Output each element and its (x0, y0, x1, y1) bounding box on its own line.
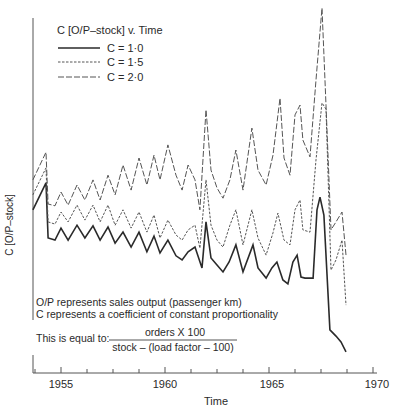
data-point (76, 184, 77, 185)
data-point (92, 179, 93, 180)
data-point (54, 205, 55, 206)
data-point (329, 329, 330, 330)
x-axis-ticks (35, 367, 373, 373)
data-point (138, 211, 139, 212)
data-point (60, 191, 61, 192)
data-point (272, 232, 273, 233)
formula-prefix: This is equal to: (36, 332, 110, 344)
data-point (300, 276, 301, 277)
series-line-15 (33, 103, 346, 305)
data-point (319, 197, 320, 198)
data-point (294, 209, 295, 210)
data-point (276, 261, 277, 262)
data-point (188, 229, 189, 230)
data-point (210, 257, 211, 258)
data-point (235, 149, 236, 150)
data-point (341, 211, 342, 212)
data-point (229, 225, 230, 226)
data-point (84, 237, 85, 238)
data-point (182, 190, 183, 191)
data-point (216, 240, 217, 241)
data-point (216, 264, 217, 265)
legend-label-c1-5: C = 1·5 (107, 56, 143, 68)
x-tick-label-1965: 1965 (260, 378, 284, 390)
data-point (201, 267, 202, 268)
data-point (266, 255, 267, 256)
data-point (131, 228, 132, 229)
data-point (282, 279, 283, 280)
data-point (115, 225, 116, 226)
data-point (175, 234, 176, 235)
annotations: O/P represents sales output (passenger k… (36, 296, 279, 353)
data-point (330, 229, 331, 230)
data-point (131, 247, 132, 248)
data-point (100, 221, 101, 222)
data-point (252, 244, 253, 245)
data-point (32, 209, 33, 210)
x-axis-tick-labels: 1955 1960 1965 1970 (49, 378, 389, 390)
legend-title: C [O/P–stock] v. Time (57, 24, 163, 36)
data-point (229, 261, 230, 262)
series-line-20 (33, 8, 346, 255)
data-point (48, 221, 49, 222)
data-point (115, 243, 116, 244)
formula-denominator: stock – (load factor – 100) (112, 341, 233, 353)
data-point (257, 237, 258, 238)
data-point (167, 240, 168, 241)
data-point (289, 244, 290, 245)
data-point (146, 232, 147, 233)
data-point (76, 205, 77, 206)
data-point (115, 194, 116, 195)
formula-numerator: orders X 100 (145, 326, 205, 338)
data-point (199, 209, 200, 210)
data-point (302, 140, 303, 141)
annotation-c: C represents a coefficient of constant p… (36, 308, 279, 320)
data-point (299, 105, 300, 106)
data-point (45, 152, 46, 153)
data-point (229, 179, 230, 180)
data-point (251, 128, 252, 129)
data-point (222, 247, 223, 248)
data-point (153, 155, 154, 156)
legend-label-c2-0: C = 2·0 (107, 71, 143, 83)
data-point (146, 251, 147, 252)
data-point (175, 175, 176, 176)
data-point (271, 267, 272, 268)
data-point (167, 144, 168, 145)
data-point (122, 164, 123, 165)
data-point (167, 220, 168, 221)
data-point (325, 105, 326, 106)
data-point (199, 248, 200, 249)
data-point (266, 278, 267, 279)
data-point (153, 214, 154, 215)
data-point (138, 157, 139, 158)
data-point (313, 278, 314, 279)
data-point (292, 261, 293, 262)
data-point (335, 336, 336, 337)
data-point (304, 278, 305, 279)
data-point (182, 259, 183, 260)
data-point (323, 214, 324, 215)
data-point (266, 184, 267, 185)
data-point (309, 156, 310, 157)
data-point (283, 240, 284, 241)
data-point (54, 224, 55, 225)
data-point (330, 270, 331, 271)
data-point (341, 240, 342, 241)
data-point (283, 157, 284, 158)
data-point (210, 225, 211, 226)
data-point (60, 228, 61, 229)
data-point (289, 175, 290, 176)
data-point (222, 198, 223, 199)
data-point (242, 271, 243, 272)
data-point (175, 255, 176, 256)
data-point (297, 255, 298, 256)
data-point (216, 187, 217, 188)
data-point (340, 341, 341, 342)
data-point (92, 205, 93, 206)
data-point (84, 220, 85, 221)
data-point (153, 236, 154, 237)
data-point (205, 179, 206, 180)
data-point (159, 237, 160, 238)
data-point (194, 247, 195, 248)
